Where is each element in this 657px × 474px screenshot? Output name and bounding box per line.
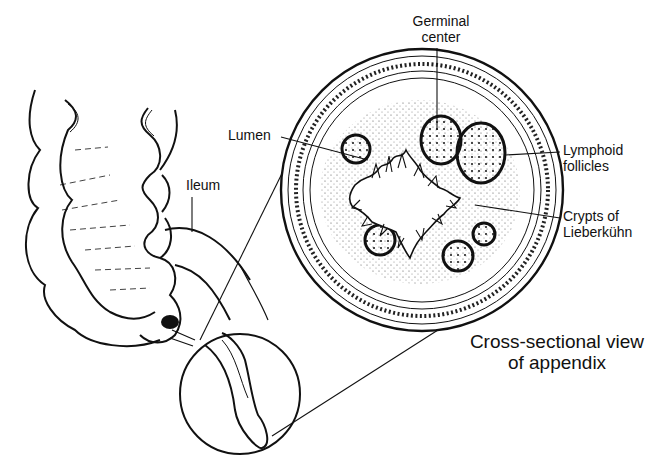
appendix-inset (180, 333, 300, 454)
appendix-diagram: Germinal center Lumen Lymphoid follicles… (0, 0, 657, 474)
germinal-center-label: Germinal center (411, 14, 471, 45)
cross-section (281, 49, 563, 331)
crypts-of-lieberkuhn-label: Crypts of Lieberkühn (563, 209, 632, 240)
illustration-drawing (0, 0, 657, 474)
figure-caption: Cross-sectional view of appendix (462, 331, 652, 374)
ileum-label: Ileum (186, 178, 220, 194)
lymphoid-follicles-label: Lymphoid follicles (563, 143, 623, 174)
lumen-label: Lumen (228, 128, 271, 144)
